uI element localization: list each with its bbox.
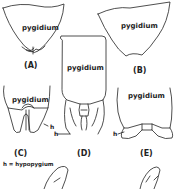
panel-e-label: (E)	[140, 150, 153, 158]
panel-d-label: (D)	[77, 150, 91, 158]
panel-g-partial-shape	[140, 167, 160, 189]
panel-d-shape	[58, 36, 106, 134]
panel-a-label: (A)	[24, 62, 38, 70]
panel-d-h-annotation: h	[54, 131, 58, 137]
panel-c-pygidium-label: pygidium	[12, 97, 49, 104]
panel-f-partial-shape	[44, 166, 68, 189]
panel-e-pygidium-label: pygidium	[128, 93, 165, 100]
panel-d-pygidium-label: pygidium	[67, 65, 104, 72]
panel-b-pygidium-label: pygidium	[121, 23, 158, 30]
panel-c-shape	[4, 86, 51, 133]
diagram-canvas: pygidium pygidium pygidium pygidium pygi…	[0, 0, 174, 189]
panel-b-label: (B)	[133, 67, 146, 75]
panel-c-label: (C)	[14, 150, 27, 158]
panel-a-pygidium-label: pygidium	[22, 25, 59, 32]
hypopygium-legend: h = hypopygium	[3, 162, 54, 168]
panel-e-h-annotation: h	[113, 131, 117, 137]
